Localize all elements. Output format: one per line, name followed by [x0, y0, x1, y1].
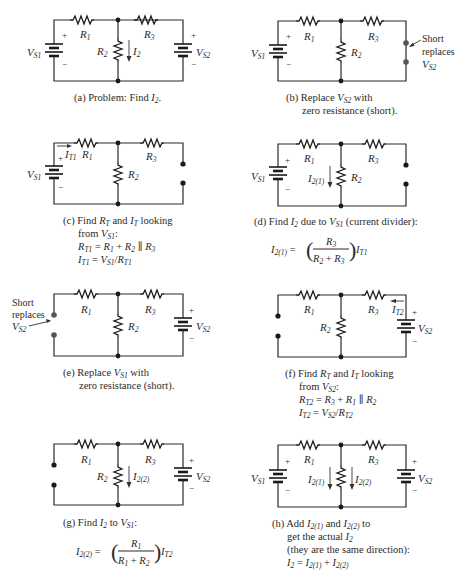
label-r2: R2 — [350, 46, 362, 60]
panel-h: + − + − VS1 VS2 R1 R3 I2(1) I2(2) (h) Ad… — [251, 441, 432, 570]
label-r3: R3 — [143, 28, 155, 42]
label-it2: IT2 — [391, 303, 404, 317]
current-arrow-i2-2 — [350, 467, 355, 490]
plus-sign: + — [191, 30, 196, 40]
caption-c-eq-rt1: RT1 = R1 + R2 ∥ R3 — [77, 241, 156, 254]
resistor-r3 — [360, 17, 384, 25]
svg-text:IT2: IT2 — [160, 546, 173, 559]
current-arrow-i2-1 — [328, 467, 333, 490]
resistor-r1 — [74, 139, 98, 147]
battery-vs1 — [269, 470, 287, 482]
plus-sign: + — [189, 455, 194, 465]
panel-a: + − + − VS1 VS2 R1 R3 R2 I2 (a) Problem:… — [27, 16, 210, 105]
minus-sign: − — [189, 333, 194, 343]
minus-sign: − — [285, 184, 290, 194]
current-arrow-i2 — [127, 40, 132, 62]
svg-text:I2(2) =: I2(2) = — [75, 546, 101, 559]
label-r3: R3 — [367, 303, 379, 317]
plus-sign: + — [62, 30, 67, 40]
label-r1: R1 — [303, 30, 314, 44]
caption-d-line1: (d) Find I2 due to VS1 (current divider)… — [254, 216, 418, 229]
circuit-g — [51, 440, 192, 507]
battery-vs2 — [174, 468, 192, 480]
short-terminal — [275, 333, 280, 338]
panel-d: + − VS1 R1 R3 R2 I2(1) (d) Find I2 due t… — [251, 140, 418, 266]
resistor-r1 — [296, 291, 320, 299]
caption-h-eq: I2 = I2(1) + I2(2) — [286, 557, 349, 570]
minus-sign: − — [58, 182, 63, 192]
label-r3: R3 — [367, 30, 379, 44]
label-vs2: VS2 — [196, 46, 210, 60]
label-r1: R1 — [79, 28, 90, 42]
label-r3: R3 — [144, 303, 156, 317]
battery-vs2 — [174, 318, 192, 330]
note-replaces: replaces — [422, 46, 455, 57]
label-r2: R2 — [127, 320, 139, 334]
label-r2: R2 — [96, 470, 108, 484]
caption-a: (a) Problem: Find I2. — [74, 92, 161, 105]
resistor-r2 — [337, 39, 345, 63]
label-vs2: VS2 — [418, 472, 432, 486]
label-i2-1: I2(1) — [307, 473, 325, 487]
panel-f: + − VS2 IT2 R1 R3 R2 (f) Find RT and IT … — [275, 291, 432, 420]
label-r1: R1 — [303, 303, 314, 317]
current-arrow-i2-1 — [328, 166, 333, 188]
svg-text:I2(1) =: I2(1) = — [270, 244, 296, 257]
label-r1: R1 — [303, 453, 314, 467]
caption-f-eq-it2: IT2 = VS2/RT2 — [298, 407, 353, 420]
circuit-e — [29, 290, 192, 358]
node-top — [116, 18, 121, 23]
svg-text:R3: R3 — [325, 236, 336, 249]
resistor-r3 — [362, 291, 386, 299]
caption-h-line2: get the actual I2 — [287, 531, 353, 544]
caption-g-line1: (g) Find I2 to VS1: — [63, 517, 137, 530]
resistor-r2 — [337, 465, 345, 489]
circuit-d — [269, 140, 409, 208]
label-r1: R1 — [303, 152, 314, 166]
caption-h-line3: (they are the same direction): — [287, 544, 410, 556]
plus-sign: + — [285, 155, 290, 165]
resistor-r1 — [74, 290, 98, 298]
label-r3: R3 — [367, 453, 379, 467]
resistor-r1 — [70, 16, 94, 24]
resistor-r2 — [114, 464, 122, 488]
caption-c-line2: from VS1: — [78, 228, 118, 241]
svg-text:R1 + R2: R1 + R2 — [117, 555, 150, 568]
panel-g: + − VS2 R1 R3 R2 I2(2) (g) Find I2 to VS… — [51, 440, 210, 568]
label-vs1: VS1 — [251, 472, 265, 486]
short-terminal — [180, 161, 185, 166]
minus-sign: − — [412, 485, 417, 495]
label-it1: IT1 — [64, 148, 77, 162]
svg-text:R1: R1 — [130, 538, 141, 551]
resistor-r1 — [296, 17, 320, 25]
svg-text:IT1: IT1 — [355, 244, 367, 257]
circuit-f — [275, 291, 415, 359]
battery-vs1 — [45, 166, 63, 178]
minus-sign: − — [191, 59, 196, 69]
superposition-diagram: + − + − VS1 VS2 R1 R3 R2 I2 (a) Problem:… — [0, 0, 462, 580]
short-terminal — [51, 482, 56, 487]
label-i2: I2 — [132, 45, 141, 59]
resistor-r1 — [296, 140, 320, 148]
label-r2: R2 — [96, 45, 108, 59]
battery-vs2 — [174, 44, 192, 56]
label-r2: R2 — [350, 171, 362, 185]
resistor-r2 — [337, 164, 345, 188]
svg-text:R2 + R3: R2 + R3 — [312, 253, 345, 266]
label-r1: R1 — [81, 148, 92, 162]
note-vs2: VS2 — [12, 320, 26, 334]
minus-sign: − — [412, 336, 417, 346]
pointer-arrow — [29, 319, 51, 326]
label-vs1: VS1 — [251, 170, 265, 184]
label-vs1: VS1 — [251, 47, 265, 61]
caption-h-line1: (h) Add I2(1) and I2(2) to — [272, 518, 370, 531]
short-terminal — [180, 180, 185, 185]
resistor-r1 — [74, 440, 98, 448]
note-replaces: replaces — [12, 309, 45, 320]
short-terminal — [403, 181, 408, 186]
panel-b: + − VS1 R1 R3 R2 Short replaces VS2 (b) … — [251, 17, 455, 117]
battery-vs1 — [269, 45, 287, 57]
plus-sign: + — [412, 456, 417, 466]
circuit-a — [45, 16, 192, 83]
battery-vs1 — [45, 44, 63, 56]
